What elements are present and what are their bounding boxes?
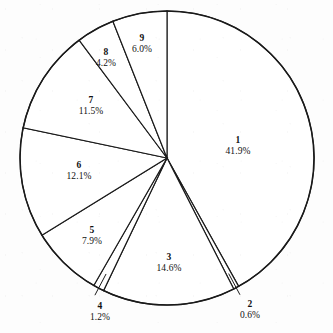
pie-slice-label-value: 12.1% xyxy=(66,171,91,182)
pie-chart-figure: 141.9%20.6%314.6%41.2%57.9%612.1%711.5%8… xyxy=(0,0,333,333)
pie-slice-label: 20.6% xyxy=(240,299,260,320)
pie-slice-label-value: 4.2% xyxy=(96,58,116,69)
pie-slice-label-name: 1 xyxy=(225,135,250,146)
pie-chart-canvas xyxy=(0,0,333,333)
pie-slice-label: 84.2% xyxy=(96,47,116,68)
pie-slice-label-name: 5 xyxy=(82,225,102,236)
pie-slice-label-value: 11.5% xyxy=(79,106,104,117)
pie-slice-label-value: 0.6% xyxy=(240,310,260,321)
pie-slice-label: 57.9% xyxy=(82,225,102,246)
pie-slice-label: 711.5% xyxy=(79,95,104,116)
pie-slice-label-name: 6 xyxy=(66,160,91,171)
pie-slice-label: 41.2% xyxy=(90,301,110,322)
pie-slice-label-value: 41.9% xyxy=(225,146,250,157)
pie-slice-label: 96.0% xyxy=(132,33,152,54)
pie-slice-label-name: 2 xyxy=(240,299,260,310)
pie-slice-label-name: 4 xyxy=(90,301,110,312)
pie-slice-label-value: 1.2% xyxy=(90,312,110,323)
pie-slice-label-value: 7.9% xyxy=(82,236,102,247)
pie-slice-label-name: 3 xyxy=(156,252,181,263)
pie-slice-label: 612.1% xyxy=(66,160,91,181)
pie-slice-label-name: 9 xyxy=(132,33,152,44)
pie-slice-label-name: 7 xyxy=(79,95,104,106)
pie-slice-label-value: 6.0% xyxy=(132,44,152,55)
pie-slice-label: 141.9% xyxy=(225,135,250,156)
pie-slice-label: 314.6% xyxy=(156,252,181,273)
pie-slice-label-name: 8 xyxy=(96,47,116,58)
pie-slice-label-value: 14.6% xyxy=(156,263,181,274)
